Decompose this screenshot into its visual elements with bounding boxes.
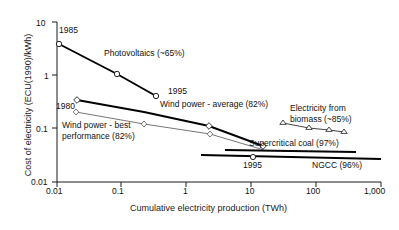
annotation-ngcc-year: 1995: [243, 160, 262, 171]
y-tick-label-0-1: 0.1: [36, 124, 48, 134]
annotation-ngcc: NGCC (96%): [312, 160, 362, 171]
annotation-biomass: Electricity from biomass (~85%): [290, 103, 352, 124]
annotation-wind-best: Wind power - best performance (82%): [62, 120, 135, 141]
x-tick-label-100: 100: [306, 186, 320, 196]
annotation-biomass-line2: biomass (~85%): [290, 114, 352, 124]
x-tick-label-0-01: 0.01: [46, 186, 63, 196]
annotation-biomass-line1: Electricity from: [290, 103, 346, 113]
annotation-pv-year-start: 1985: [59, 25, 78, 36]
series-supercritical-coal: [225, 150, 356, 152]
x-axis-title: Cumulative electricity production (TWh): [130, 203, 287, 213]
y-axis-title: Cost of electricity (ECU(1990)/kWh): [23, 25, 33, 185]
x-tick-label-10: 10: [245, 186, 254, 196]
annotation-wind-best-line1: Wind power - best: [62, 120, 131, 130]
x-axis-ticks: [57, 182, 381, 187]
annotation-supercritical-coal: Supercritical coal (97%): [249, 138, 339, 149]
x-tick-label-1000: 1,000: [364, 186, 385, 196]
annotation-wind-average: Wind power - average (82%): [160, 99, 268, 110]
x-tick-label-1: 1: [183, 186, 188, 196]
annotation-wind-year-start: 1980: [56, 101, 75, 112]
x-tick-label-0-1: 0.1: [112, 186, 124, 196]
annotation-pv-year-end: 1995: [168, 86, 187, 97]
y-tick-label-10: 10: [36, 18, 45, 28]
figure-container: 10 1 0.1 0.01 0.01 0.1 1 10 100 1,000 Cu…: [0, 0, 399, 230]
annotation-photovoltaics: Photovoltaics (~65%): [104, 48, 185, 59]
y-tick-label-1: 1: [44, 71, 49, 81]
annotation-wind-best-line2: performance (82%): [62, 131, 135, 141]
series-ngcc: [201, 154, 381, 159]
